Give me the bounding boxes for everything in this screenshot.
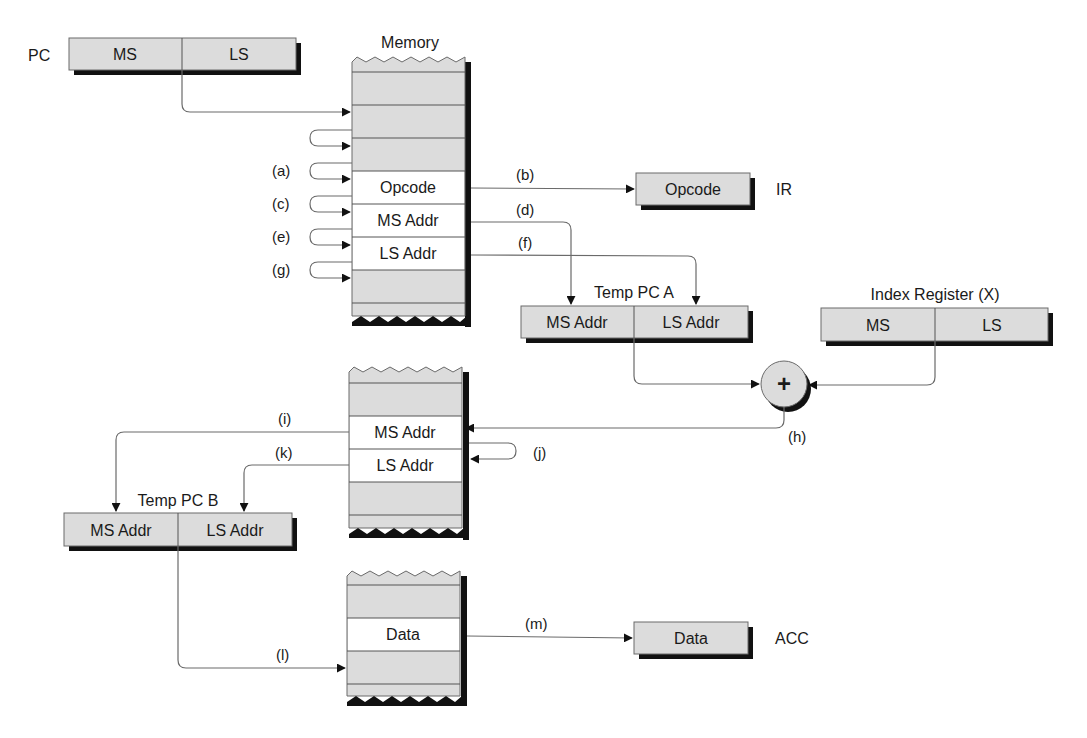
acc-label: ACC xyxy=(775,630,809,647)
ir-opcode-field: Opcode xyxy=(665,181,721,198)
step-d-label: (d) xyxy=(516,201,534,218)
temp-pc-a-ms-field: MS Addr xyxy=(546,314,608,331)
step-h-arrow xyxy=(466,407,784,428)
step-i-label: (i) xyxy=(278,410,291,427)
memory-title: Memory xyxy=(381,34,439,51)
step-e-label: (e) xyxy=(272,228,290,245)
index-ls-field: LS xyxy=(982,317,1002,334)
index-register-label: Index Register (X) xyxy=(871,286,1000,303)
step-m-arrow xyxy=(467,636,632,638)
step-g-loop xyxy=(310,262,352,278)
memory-1-shadow xyxy=(465,62,471,327)
step-a-label: (a) xyxy=(272,162,290,179)
index-ms-field: MS xyxy=(866,317,890,334)
plus-icon: + xyxy=(777,370,791,397)
memory-2-ls-addr-cell: LS Addr xyxy=(377,457,435,474)
step-j-label: (j) xyxy=(533,444,546,461)
step-h-label: (h) xyxy=(788,428,806,445)
acc-register: Data ACC xyxy=(634,622,809,659)
adder: + xyxy=(761,361,811,412)
indexed-addressing-diagram: PC MS LS Memory Opcode MS Addr LS Addr (… xyxy=(0,0,1087,738)
step-c-label: (c) xyxy=(272,195,290,212)
temp-pc-b-ls-field: LS Addr xyxy=(207,522,265,539)
step-j-loop xyxy=(469,443,516,459)
pc-label: PC xyxy=(28,47,50,64)
pc-to-memory-arrow xyxy=(182,70,350,112)
index-register: Index Register (X) MS LS xyxy=(821,286,1053,346)
temp-pc-b-label: Temp PC B xyxy=(138,492,219,509)
step-b-arrow xyxy=(471,188,634,189)
memory-1-ms-addr-cell: MS Addr xyxy=(377,212,439,229)
temp-pc-b-register: Temp PC B MS Addr LS Addr xyxy=(64,492,297,551)
step-k-label: (k) xyxy=(275,444,293,461)
temp-pc-a-to-adder-arrow xyxy=(634,338,759,384)
step-k-arrow xyxy=(244,465,349,511)
pc-increment-loops xyxy=(310,130,352,278)
memory-block-3: Data xyxy=(347,571,467,706)
temp-pc-a-register: Temp PC A MS Addr LS Addr xyxy=(521,284,753,343)
step-l-arrow xyxy=(178,546,345,668)
temp-pc-a-ls-field: LS Addr xyxy=(663,314,721,331)
memory-block-2: MS Addr LS Addr xyxy=(349,367,469,540)
memory-2-ms-addr-cell: MS Addr xyxy=(374,424,436,441)
ir-label: IR xyxy=(776,181,792,198)
ir-register: Opcode IR xyxy=(636,173,792,210)
step-g-label: (g) xyxy=(272,261,290,278)
memory-1-torn-edge xyxy=(352,316,467,326)
step-f-label: (f) xyxy=(518,234,532,251)
step-e-loop xyxy=(310,229,352,245)
step-l-label: (l) xyxy=(276,646,289,663)
memory-1-ls-addr-cell: LS Addr xyxy=(380,245,438,262)
index-to-adder-arrow xyxy=(809,341,935,385)
temp-pc-a-label: Temp PC A xyxy=(594,284,674,301)
temp-pc-b-ms-field: MS Addr xyxy=(90,522,152,539)
pc-register: PC MS LS xyxy=(28,38,301,75)
step-m-label: (m) xyxy=(525,615,548,632)
step-b-label: (b) xyxy=(516,166,534,183)
memory-3-data-cell: Data xyxy=(386,626,420,643)
pc-ls-field: LS xyxy=(229,46,249,63)
pc-ms-field: MS xyxy=(113,46,137,63)
step-a-loop xyxy=(310,163,352,179)
acc-data-field: Data xyxy=(674,630,708,647)
memory-block-1: Memory Opcode MS Addr LS Addr xyxy=(352,34,471,327)
memory-1-opcode-cell: Opcode xyxy=(380,179,436,196)
step-c-loop xyxy=(310,196,352,212)
